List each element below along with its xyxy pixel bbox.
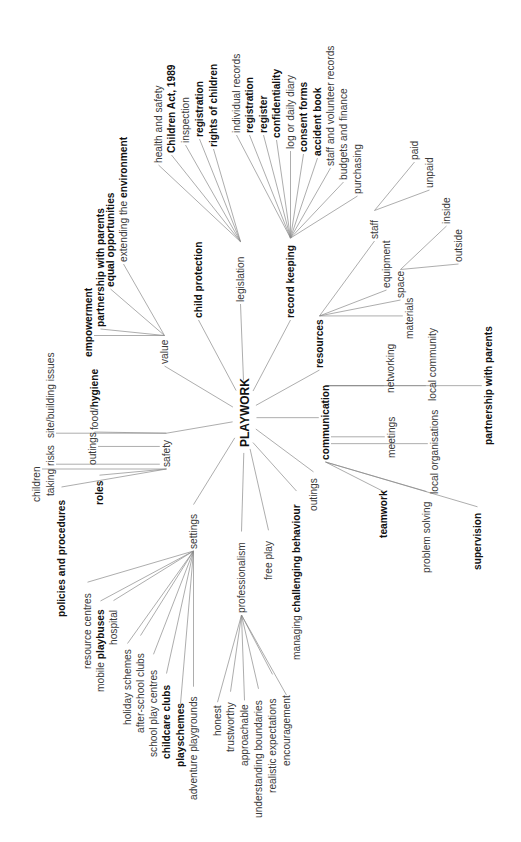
connector-line bbox=[253, 320, 290, 391]
connector-line bbox=[241, 304, 244, 380]
leaf-outside: outside bbox=[453, 229, 464, 262]
connector-line bbox=[186, 145, 241, 242]
connector-line bbox=[100, 469, 167, 475]
connector-line bbox=[264, 135, 291, 238]
leaf-encouragement: encouragement bbox=[281, 695, 292, 766]
branch-managing-challenging-behaviour: managing challenging behaviour bbox=[291, 504, 302, 660]
branch-outings: outings bbox=[308, 478, 319, 511]
branch-free-play: free play bbox=[263, 540, 274, 580]
leaf-local-organisations: local organisations bbox=[429, 410, 440, 494]
connector-line bbox=[231, 615, 242, 692]
leaf-space: space bbox=[395, 270, 406, 298]
connector-line bbox=[101, 329, 165, 336]
leaf-adventure-playgrounds: adventure playgrounds bbox=[188, 696, 199, 800]
connector-line bbox=[114, 551, 194, 601]
branch-professionalism: professionalism bbox=[236, 542, 247, 613]
leaf-materials: materials bbox=[404, 298, 415, 339]
connector-line bbox=[159, 165, 241, 242]
leaf-staff-and-volunteer-records: staff and volunteer records bbox=[325, 46, 336, 166]
leaf-empowerment: empowerment bbox=[83, 287, 94, 357]
leaf-mobile-playbuses: mobile playbuses bbox=[95, 609, 106, 692]
leaf-teamwork: teamwork bbox=[378, 490, 389, 538]
leaf-registration: registration bbox=[244, 77, 255, 133]
leaf-log-or-daily-diary: log or daily diary bbox=[285, 74, 296, 149]
leaf-purchasing: purchasing bbox=[352, 144, 363, 194]
connector-line bbox=[320, 300, 401, 316]
connector-line bbox=[111, 289, 165, 336]
connector-line bbox=[320, 290, 387, 316]
leaf-holiday-schemes: holiday schemes bbox=[122, 649, 133, 725]
connector-line bbox=[401, 264, 459, 270]
branch-safety: safety bbox=[161, 439, 172, 467]
connector-line bbox=[320, 241, 375, 316]
leaf-realistic-expectations: realistic expectations bbox=[267, 698, 278, 793]
connector-line bbox=[62, 469, 167, 487]
connector-line bbox=[124, 264, 165, 336]
branch-settings: settings bbox=[188, 514, 199, 549]
leaf-partnership-with-parents: partnership with parents bbox=[483, 326, 494, 445]
leaf-policies-and-procedures: policies and procedures bbox=[56, 499, 67, 617]
leaf-trustworthy: trustworthy bbox=[225, 701, 236, 752]
leaf-unpaid: unpaid bbox=[424, 157, 435, 188]
leaf-site-building-issues: site/building issues bbox=[45, 352, 56, 438]
branch-value: value bbox=[159, 339, 170, 364]
branch-legislation: legislation bbox=[235, 257, 246, 302]
leaf-budgets-and-finance: budgets and finance bbox=[338, 88, 349, 180]
leaf-school-play-centres: school play centres bbox=[148, 670, 159, 757]
connector-line bbox=[242, 615, 287, 695]
leaf-health-and-safety: health and safety bbox=[153, 84, 164, 163]
connector-line bbox=[242, 453, 244, 532]
leaf-accident-book: accident book bbox=[312, 87, 323, 156]
leaf-roles: roles bbox=[94, 480, 105, 505]
connector-line bbox=[326, 462, 478, 507]
connector-line bbox=[256, 429, 314, 472]
leaf-children-act-1989: Children Act, 1989 bbox=[166, 64, 177, 153]
leaf-equal-opportunities: equal opportunities bbox=[105, 192, 116, 287]
connector-line bbox=[237, 135, 291, 238]
leaf-approachable: approachable bbox=[239, 704, 250, 766]
branch-communication: communication bbox=[320, 385, 331, 460]
connector-line bbox=[141, 551, 194, 636]
leaf-inside: inside bbox=[441, 197, 452, 224]
leaf-playschemes: playschemes bbox=[175, 703, 186, 767]
connector-line bbox=[200, 139, 241, 242]
connector-line bbox=[250, 135, 291, 238]
leaf-extending-the-environment: extending the environment bbox=[118, 136, 129, 262]
branch-record-keeping: record keeping bbox=[285, 245, 296, 318]
leaf-understanding-boundaries: understanding boundaries bbox=[253, 700, 264, 818]
playwork-mind-map: PLAYWORKvalueempowermentpartnership with… bbox=[0, 0, 521, 842]
leaf-registration: registration bbox=[194, 81, 205, 137]
leaf-local-community: local community bbox=[427, 327, 438, 401]
leaf-resource-centres: resource centres bbox=[82, 593, 93, 669]
connector-line bbox=[165, 366, 233, 407]
connector-line bbox=[250, 449, 268, 530]
connector-line bbox=[101, 551, 194, 601]
connector-line bbox=[199, 320, 237, 391]
leaf-equipment: equipment bbox=[381, 240, 392, 288]
connector-line bbox=[401, 226, 447, 270]
connector-line bbox=[181, 551, 194, 704]
branch-child-protection: child protection bbox=[193, 242, 204, 318]
leaf-confidentiality: confidentiality bbox=[271, 69, 282, 138]
leaf-food-hygiene: food/hygiene bbox=[89, 368, 100, 430]
leaf-meetings: meetings bbox=[386, 417, 397, 458]
leaf-hospital: hospital bbox=[108, 610, 119, 645]
connector-line bbox=[88, 551, 194, 582]
connector-line bbox=[253, 443, 297, 492]
connector-line bbox=[167, 422, 233, 433]
leaf-staff: staff bbox=[369, 220, 380, 239]
leaf-honest: honest bbox=[212, 705, 223, 736]
center-node-playwork: PLAYWORK bbox=[238, 378, 252, 447]
leaf-outings: outings bbox=[87, 432, 98, 465]
leaf-individual-records: individual records bbox=[231, 54, 242, 133]
leaf-children: children bbox=[31, 466, 42, 502]
leaf-problem-solving: problem solving bbox=[421, 501, 432, 573]
connector-line bbox=[214, 149, 241, 242]
leaf-rights-of-children: rights of children bbox=[208, 64, 219, 147]
connector-line bbox=[242, 615, 245, 700]
leaf-paid: paid bbox=[409, 140, 420, 160]
leaf-register: register bbox=[258, 96, 269, 133]
leaf-consent-forms: consent forms bbox=[298, 81, 309, 152]
connector-line bbox=[154, 551, 194, 654]
leaf-after-school-clubs: after-school clubs bbox=[135, 653, 146, 733]
